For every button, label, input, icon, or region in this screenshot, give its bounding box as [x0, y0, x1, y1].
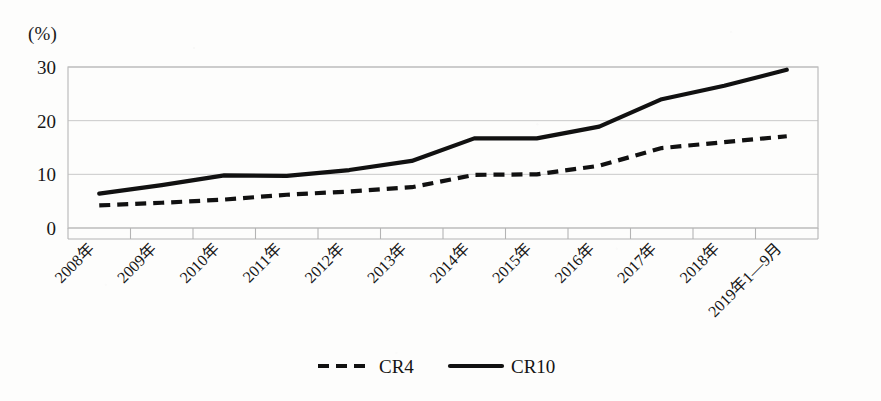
legend-label-cr4: CR4 [379, 356, 414, 377]
x-tick-label-1: 2009年 [114, 240, 160, 286]
x-tick-label-8: 2016年 [551, 240, 597, 286]
x-tick-label-0: 2008年 [51, 240, 97, 286]
x-tick-label-6: 2014年 [426, 240, 472, 286]
x-tick-label-10: 2018年 [676, 240, 722, 286]
x-tick-label-2: 2010年 [176, 240, 222, 286]
series-line-cr10 [99, 70, 787, 194]
y-tick-label-0: 0 [47, 218, 57, 239]
chart-legend: CR4CR10 [318, 356, 555, 377]
y-tick-label-10: 10 [37, 164, 56, 185]
x-tick-label-3: 2011年 [239, 240, 285, 286]
y-axis-tick-labels: 0102030 [37, 57, 56, 239]
x-axis-ticks [68, 228, 818, 239]
y-tick-label-20: 20 [37, 111, 56, 132]
x-tick-label-9: 2017年 [614, 240, 660, 286]
chart-page: (%) 0102030 2008年2009年2010年2011年2012年201… [0, 0, 881, 401]
line-chart: 0102030 2008年2009年2010年2011年2012年2013年20… [0, 0, 881, 401]
y-tick-label-30: 30 [37, 57, 56, 78]
x-tick-label-7: 2015年 [489, 240, 535, 286]
legend-label-cr10: CR10 [511, 356, 555, 377]
x-tick-label-5: 2013年 [364, 240, 410, 286]
x-axis-tick-labels: 2008年2009年2010年2011年2012年2013年2014年2015年… [51, 240, 784, 320]
data-series-group [99, 70, 787, 206]
x-tick-label-4: 2012年 [301, 240, 347, 286]
series-line-cr4 [99, 136, 787, 205]
